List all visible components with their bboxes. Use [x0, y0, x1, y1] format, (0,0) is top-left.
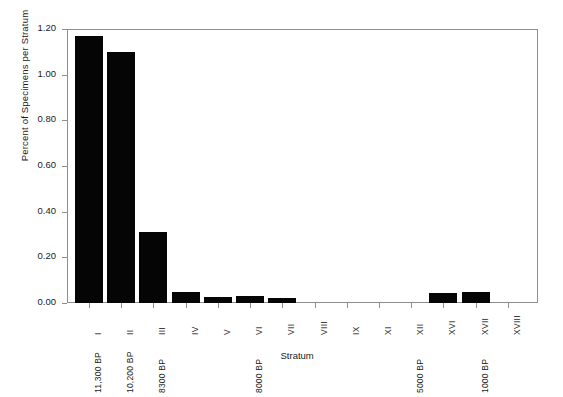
- x-bp-label: 10,200 BP: [125, 352, 135, 394]
- x-tick-label: XVII: [480, 318, 490, 335]
- bar-chart-figure: Percent of Specimens per Stratum 1.201.0…: [0, 0, 563, 397]
- y-axis-title: Percent of Specimens per Stratum: [19, 0, 30, 186]
- x-tick-mark: [508, 303, 509, 308]
- bar: [139, 232, 167, 303]
- bar: [429, 293, 457, 303]
- y-tick-label: 0.40: [38, 205, 57, 216]
- x-tick-mark: [443, 303, 444, 308]
- bar: [462, 292, 490, 303]
- y-tick-label: 1.20: [38, 22, 57, 33]
- x-tick-label: V: [222, 329, 232, 335]
- x-tick-label: VII: [286, 324, 296, 335]
- x-tick-label: I: [93, 332, 103, 335]
- x-tick-mark: [186, 303, 187, 308]
- x-tick-label: IV: [190, 326, 200, 335]
- y-tick-label: 0.00: [38, 296, 57, 307]
- bars-layer: [67, 29, 538, 303]
- x-bp-label: 8000 BP: [254, 359, 264, 393]
- x-tick-mark: [379, 303, 380, 308]
- x-tick-mark: [121, 303, 122, 308]
- x-tick-label: XII: [415, 324, 425, 335]
- x-tick-label: III: [157, 327, 167, 335]
- bar: [172, 292, 200, 303]
- x-axis-category-labels: IIIIIIIVVVIVIIVIIIIXXIXIIXVIXVIIXVIII: [67, 309, 538, 339]
- x-tick-label: VIII: [319, 321, 329, 335]
- x-axis-bp-labels: 11,300 BP10,200 BP8300 BP8000 BP5000 BP1…: [67, 340, 538, 396]
- x-tick-label: XVIII: [512, 315, 522, 335]
- bar: [236, 296, 264, 303]
- x-tick-label: XVI: [447, 320, 457, 335]
- y-tick-label: 0.20: [38, 250, 57, 261]
- bar: [107, 52, 135, 303]
- x-tick-mark: [315, 303, 316, 308]
- x-tick-mark: [153, 303, 154, 308]
- x-bp-label: 5000 BP: [415, 359, 425, 393]
- y-tick-label: 0.80: [38, 113, 57, 124]
- x-tick-mark: [250, 303, 251, 308]
- x-tick-label: IX: [351, 326, 361, 335]
- x-axis-title: Stratum: [281, 350, 314, 361]
- bar: [75, 36, 103, 303]
- x-tick-label: II: [125, 330, 135, 335]
- y-tick-label: 0.60: [38, 159, 57, 170]
- x-bp-label: 8300 BP: [157, 359, 167, 393]
- x-tick-mark: [476, 303, 477, 308]
- x-tick-label: VI: [254, 326, 264, 335]
- x-tick-mark: [347, 303, 348, 308]
- x-bp-label: 1000 BP: [480, 359, 490, 393]
- x-bp-label: 11,300 BP: [93, 352, 103, 393]
- x-tick-mark: [282, 303, 283, 308]
- x-tick-mark: [89, 303, 90, 308]
- x-tick-mark: [411, 303, 412, 308]
- x-tick-mark: [218, 303, 219, 308]
- x-tick-label: XI: [383, 326, 393, 335]
- y-tick-label: 1.00: [38, 68, 57, 79]
